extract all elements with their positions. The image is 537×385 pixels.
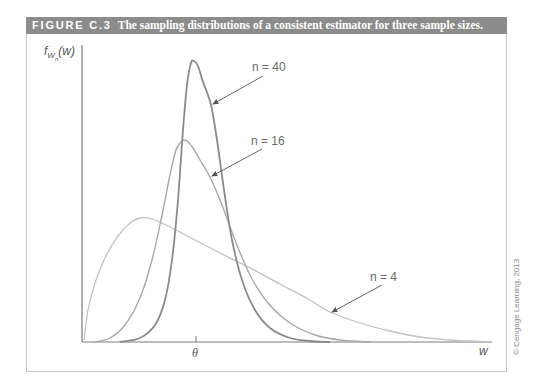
label-n16: n = 16: [251, 134, 285, 148]
curve-n4: [84, 218, 492, 342]
x-axis-label: w: [479, 344, 489, 358]
label-n40: n = 40: [252, 60, 286, 74]
y-axis-label: fWn(w): [44, 44, 75, 62]
copyright-notice: © Cengage Learning, 2013: [512, 259, 521, 355]
label-n4: n = 4: [370, 270, 397, 284]
curve-n40: [120, 60, 330, 342]
x-tick-label-theta: θ: [192, 346, 198, 360]
arrow-n4: [332, 285, 382, 312]
arrow-n40: [213, 76, 263, 104]
chart-plot: n = 40 n = 16 n = 4 fWn(w) θ w: [0, 0, 537, 385]
